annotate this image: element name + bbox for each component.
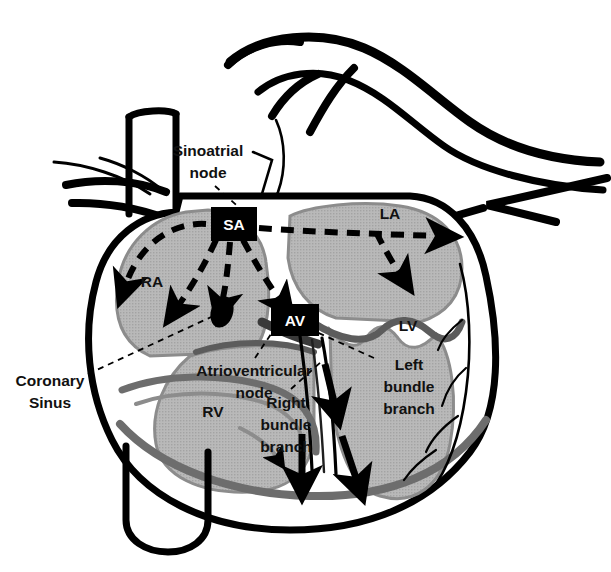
- annotation-lbb-line-1: Left: [395, 356, 423, 373]
- annotation-rbb-line-1: Right: [266, 394, 306, 411]
- chamber-label-rv: RV: [202, 403, 224, 420]
- diagram-canvas: SA AV RA LA RV LV Sinoatrial node Corona…: [0, 0, 611, 572]
- annotation-sinoatrial-line-1: Sinoatrial: [173, 142, 244, 159]
- av-node-marker: AV: [271, 304, 319, 336]
- annotation-sinoatrial-line-2: node: [189, 164, 226, 181]
- annotation-av-line-1: Atrioventricular: [196, 362, 311, 379]
- annotation-rbb-line-2: bundle: [261, 416, 312, 433]
- annotation-rbb-line-3: branch: [260, 438, 312, 455]
- annotation-lbb-line-2: bundle: [384, 378, 435, 395]
- annotation-right-bundle-branch: Right bundle branch: [260, 394, 312, 455]
- annotation-coronary-sinus-line-1: Coronary: [16, 372, 85, 389]
- sa-node-label: SA: [223, 216, 245, 233]
- chamber-label-la: LA: [380, 205, 401, 222]
- av-node-label: AV: [285, 312, 306, 329]
- sa-node-marker: SA: [211, 207, 257, 241]
- chamber-label-lv: LV: [399, 317, 418, 334]
- heart-conduction-diagram: SA AV RA LA RV LV Sinoatrial node Corona…: [0, 0, 611, 572]
- annotation-lbb-line-3: branch: [383, 400, 435, 417]
- chamber-label-ra: RA: [141, 273, 163, 290]
- annotation-coronary-sinus-line-2: Sinus: [29, 394, 71, 411]
